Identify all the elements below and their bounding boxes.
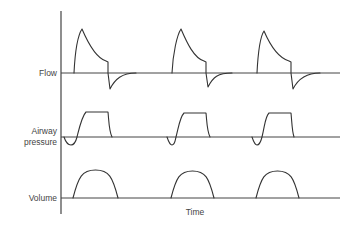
volume-waveform — [73, 170, 299, 198]
volume-label: Volume — [29, 193, 58, 203]
volume-cycle-3 — [256, 171, 299, 198]
time-axis-label: Time — [186, 207, 205, 217]
flow-cycle-1 — [74, 29, 136, 89]
ventilator-waveform-diagram: Flow Airway pressure Volume Time — [0, 0, 354, 227]
flow-waveform — [74, 29, 320, 89]
flow-label: Flow — [39, 68, 58, 78]
pressure-cycle-1 — [64, 112, 112, 145]
pressure-cycle-2 — [167, 113, 210, 145]
volume-cycle-2 — [171, 171, 214, 198]
pressure-cycle-3 — [252, 113, 294, 145]
volume-cycle-1 — [73, 170, 118, 198]
airway-pressure-waveform — [64, 112, 294, 145]
airway-pressure-label-line1: Airway — [31, 126, 57, 136]
airway-pressure-label-line2: pressure — [24, 137, 57, 147]
flow-cycle-3 — [257, 31, 320, 89]
flow-cycle-2 — [172, 29, 232, 87]
